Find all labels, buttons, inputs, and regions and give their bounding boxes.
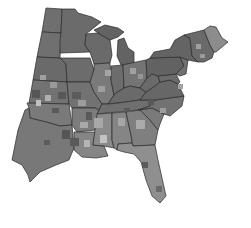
state-nebraska <box>33 57 67 82</box>
choropleth-map <box>0 0 251 228</box>
